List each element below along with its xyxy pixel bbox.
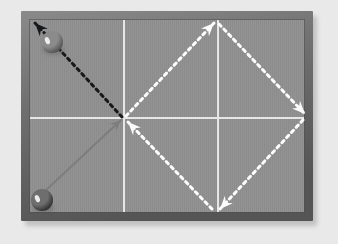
diagram-stage: [0, 0, 338, 244]
ball-body: [31, 189, 53, 211]
ball-body: [41, 31, 63, 53]
table-felt: [30, 20, 304, 212]
pool-table-diagram: [0, 0, 338, 244]
